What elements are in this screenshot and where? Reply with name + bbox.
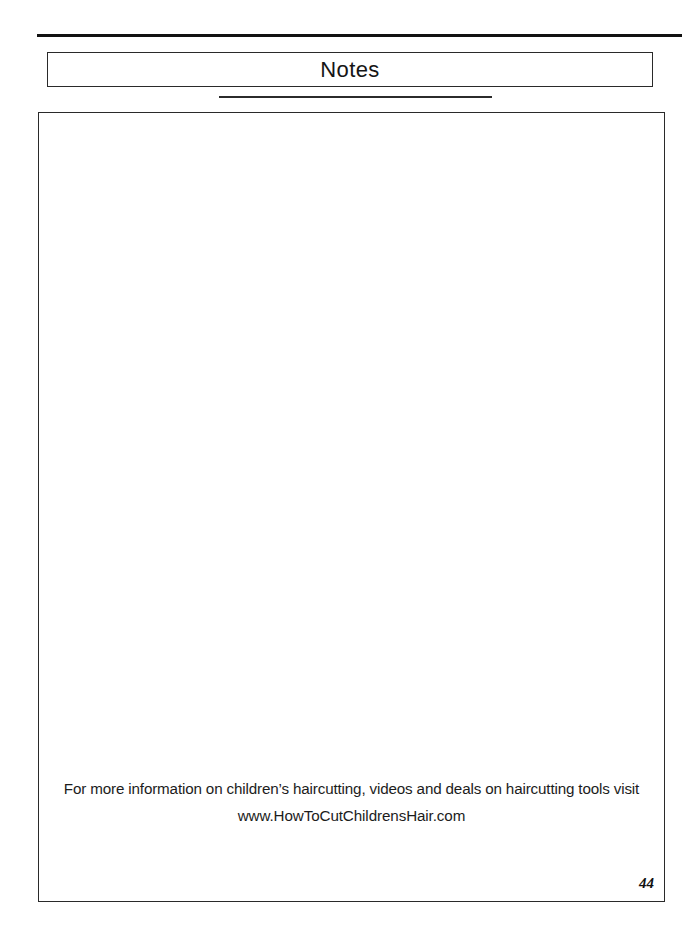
header-sub-rule xyxy=(219,96,492,98)
footer-promo-line: For more information on children’s hairc… xyxy=(51,775,652,802)
header-top-rule xyxy=(37,34,682,37)
notes-writing-space[interactable] xyxy=(39,113,664,793)
page-number: 44 xyxy=(639,876,654,891)
footer-website-url: www.HowToCutChildrensHair.com xyxy=(51,802,652,829)
notes-header-box: Notes xyxy=(47,52,653,87)
page-title: Notes xyxy=(48,59,652,81)
document-page: Notes For more information on children’s… xyxy=(0,0,698,950)
notes-content-box: For more information on children’s hairc… xyxy=(38,112,665,902)
footer-promo: For more information on children’s hairc… xyxy=(51,775,652,829)
